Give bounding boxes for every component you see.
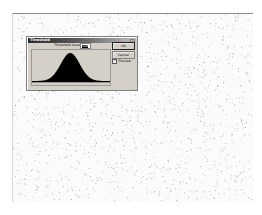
preview-label: Preview	[119, 59, 131, 64]
histogram-graph	[32, 50, 110, 85]
ok-button[interactable]: OK	[112, 42, 135, 50]
threshold-dialog: Threshold × Threshold Level: 128 OK Canc…	[26, 36, 138, 91]
cancel-button[interactable]: Cancel	[112, 51, 135, 59]
checkbox-check-icon[interactable]: ✓	[112, 59, 117, 64]
dialog-title: Threshold	[30, 37, 50, 43]
threshold-level-label: Threshold Level:	[54, 43, 82, 48]
preview-checkbox[interactable]: ✓ Preview	[112, 59, 131, 64]
threshold-level-value: 128	[82, 45, 88, 48]
histogram[interactable]	[31, 49, 111, 86]
